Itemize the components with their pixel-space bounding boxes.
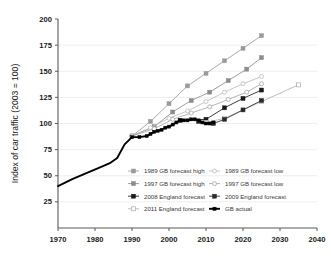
legend-label: GB actual <box>225 205 252 212</box>
x-tick-label-1970: 1970 <box>50 235 67 244</box>
data-point <box>186 109 190 113</box>
data-point <box>213 194 217 198</box>
series-line <box>206 85 299 123</box>
data-point <box>132 182 136 186</box>
y-tick-label-25: 25 <box>44 197 53 206</box>
x-tick-label-2030: 2030 <box>272 235 289 244</box>
data-point <box>186 84 190 88</box>
data-point <box>260 74 264 78</box>
y-tick-label-150: 150 <box>39 67 52 76</box>
data-point <box>245 90 249 94</box>
data-point <box>223 106 227 110</box>
data-point <box>186 119 189 122</box>
data-point <box>160 128 163 131</box>
data-point <box>223 59 227 63</box>
data-point <box>260 82 264 86</box>
y-tick-label-200: 200 <box>39 15 52 24</box>
legend-item-1997-gb-forecast-low[interactable]: 1997 GB forecast low <box>209 180 284 187</box>
legend-item-1989-gb-forecast-low[interactable]: 1989 GB forecast low <box>209 167 284 174</box>
legend-label: 1989 GB forecast high <box>144 167 205 174</box>
data-point <box>223 117 227 121</box>
series-1989-gb-forecast-low <box>130 74 264 138</box>
data-point <box>223 90 227 94</box>
data-point <box>208 122 211 125</box>
data-point <box>190 118 193 121</box>
y-tick-label-75: 75 <box>44 145 53 154</box>
data-point <box>171 117 175 121</box>
data-point <box>179 119 182 122</box>
data-point <box>138 136 141 139</box>
data-point <box>260 99 264 103</box>
data-point <box>260 88 264 92</box>
data-point <box>241 108 245 112</box>
y-tick-label-125: 125 <box>39 93 52 102</box>
legend-label: 1997 GB forecast low <box>225 180 284 187</box>
data-point <box>132 194 136 198</box>
legend-label: 1989 GB forecast low <box>225 167 284 174</box>
x-tick-label-2040: 2040 <box>309 235 326 244</box>
data-point <box>213 207 216 210</box>
data-point <box>131 136 134 139</box>
data-point <box>226 79 230 83</box>
data-point <box>204 100 208 104</box>
data-point <box>171 123 174 126</box>
data-point <box>145 135 148 138</box>
data-point <box>205 122 208 125</box>
legend-label: 2008 England forecast <box>144 193 205 200</box>
data-point <box>241 96 245 100</box>
legend-label: 2011 England forecast <box>144 205 205 212</box>
legend-item-2008-england-forecast[interactable]: 2008 England forecast <box>128 193 205 200</box>
series-line <box>58 119 213 186</box>
data-point <box>201 121 204 124</box>
y-tick-label-100: 100 <box>39 119 52 128</box>
x-tick-label-2020: 2020 <box>235 235 252 244</box>
series-line <box>180 90 261 120</box>
data-point <box>182 119 185 122</box>
y-tick-label-175: 175 <box>39 41 52 50</box>
data-point <box>204 71 208 75</box>
x-tick-label-2000: 2000 <box>161 235 178 244</box>
data-point <box>213 169 217 173</box>
data-point <box>213 182 217 186</box>
data-point <box>241 82 245 86</box>
data-point <box>212 121 215 124</box>
x-tick-label-2010: 2010 <box>198 235 215 244</box>
data-point <box>208 105 212 109</box>
data-point <box>149 119 153 123</box>
data-point <box>164 126 167 129</box>
data-point <box>297 83 301 87</box>
line-chart: 2550751001251501752001970198019902000201… <box>0 0 331 260</box>
data-point <box>156 129 159 132</box>
data-point <box>189 111 193 115</box>
data-point <box>153 130 156 133</box>
data-point <box>193 118 196 121</box>
x-tick-label-1990: 1990 <box>124 235 141 244</box>
x-tick-label-1980: 1980 <box>87 235 104 244</box>
data-point <box>175 121 178 124</box>
data-point <box>208 90 212 94</box>
data-point <box>171 110 175 114</box>
data-point <box>132 169 136 173</box>
legend-label: 1997 GB forecast high <box>144 180 205 187</box>
data-point <box>168 125 171 128</box>
data-point <box>260 34 264 38</box>
data-point <box>132 207 136 211</box>
data-point <box>226 97 230 101</box>
data-point <box>189 99 193 103</box>
data-point <box>167 102 171 106</box>
y-axis-title: Index of car traffic (2003 = 100) <box>10 64 20 184</box>
legend-item-2011-england-forecast[interactable]: 2011 England forecast <box>128 205 205 212</box>
data-point <box>260 56 264 60</box>
chart-figure: 2550751001251501752001970198019902000201… <box>0 0 331 260</box>
legend-item-1997-gb-forecast-high[interactable]: 1997 GB forecast high <box>128 180 205 187</box>
legend-item-1989-gb-forecast-high[interactable]: 1989 GB forecast high <box>128 167 205 174</box>
legend-label: 2009 England forecast <box>225 193 286 200</box>
data-point <box>245 67 249 71</box>
legend-item-gb-actual[interactable]: GB actual <box>209 205 252 212</box>
chart-legend: 1989 GB forecast high1997 GB forecast hi… <box>128 167 286 212</box>
legend-item-2009-england-forecast[interactable]: 2009 England forecast <box>209 193 286 200</box>
data-point <box>197 119 200 122</box>
data-point <box>149 132 152 135</box>
y-tick-label-50: 50 <box>44 171 52 180</box>
data-point <box>241 46 245 50</box>
